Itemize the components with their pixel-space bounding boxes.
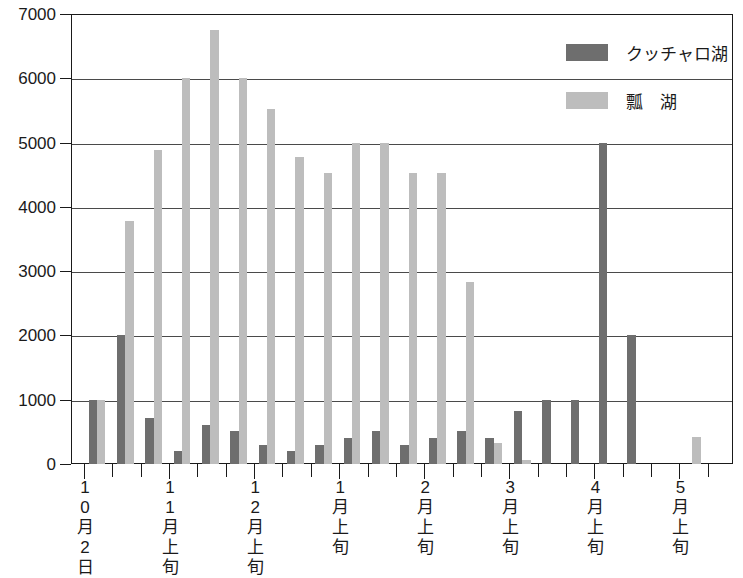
- x-tick-label-char: 0: [72, 498, 98, 518]
- gridline: [72, 144, 732, 145]
- y-tick-label: 7000: [0, 6, 56, 23]
- y-tick-label: 4000: [0, 198, 56, 215]
- x-tick-mark: [311, 464, 312, 477]
- x-tick-label: 4月上旬: [582, 478, 608, 558]
- x-tick-label-char: 日: [72, 558, 98, 578]
- x-tick-label-char: 旬: [327, 538, 353, 558]
- x-tick-mark: [141, 464, 142, 477]
- x-tick-label-char: 3: [497, 478, 523, 498]
- x-tick-mark: [339, 464, 340, 479]
- x-tick-label: 11月上旬: [157, 478, 183, 578]
- gridline: [72, 272, 732, 273]
- x-tick-mark: [112, 464, 113, 477]
- x-tick-label: 3月上旬: [497, 478, 523, 558]
- x-axis-labels: 10月2日11月上旬12月上旬1月上旬2月上旬3月上旬4月上旬5月上旬: [0, 478, 743, 565]
- x-tick-label-char: 月: [242, 518, 268, 538]
- x-tick-mark: [594, 464, 595, 479]
- x-tick-mark: [169, 464, 170, 479]
- y-tick-label: 1000: [0, 391, 56, 408]
- legend-label-hyoko: 瓢 湖: [626, 88, 677, 113]
- x-tick-mark: [197, 464, 198, 477]
- y-tick-mark: [60, 207, 71, 208]
- x-tick-label-char: 1: [157, 478, 183, 498]
- x-tick-mark: [708, 464, 709, 477]
- x-tick-mark: [481, 464, 482, 477]
- y-tick-label: 2000: [0, 327, 56, 344]
- y-tick-label: 3000: [0, 263, 56, 280]
- x-tick-label-char: 上: [412, 518, 438, 538]
- x-tick-mark: [538, 464, 539, 477]
- y-tick-mark: [60, 400, 71, 401]
- legend-swatch-dark-icon: [566, 44, 608, 61]
- x-tick-label-char: 上: [582, 518, 608, 538]
- legend-item-hyoko: 瓢 湖: [566, 76, 736, 124]
- x-tick-label-char: 2: [242, 498, 268, 518]
- x-tick-mark: [254, 464, 255, 479]
- x-tick-label-char: 旬: [157, 558, 183, 578]
- x-tick-label-char: 旬: [242, 558, 268, 578]
- x-axis-ticks: [71, 464, 733, 478]
- x-tick-label: 5月上旬: [667, 478, 693, 558]
- y-tick-mark: [60, 14, 71, 15]
- x-tick-label-char: 上: [497, 518, 523, 538]
- x-tick-label-char: 月: [412, 498, 438, 518]
- y-tick-label: 6000: [0, 70, 56, 87]
- x-tick-mark: [424, 464, 425, 479]
- legend: クッチャロ湖 瓢 湖: [566, 28, 736, 124]
- y-tick-mark: [60, 143, 71, 144]
- x-tick-label-char: 2: [72, 538, 98, 558]
- legend-label-kuccharo: クッチャロ湖: [626, 40, 728, 65]
- x-tick-label-char: 1: [72, 478, 98, 498]
- x-tick-mark: [651, 464, 652, 477]
- x-tick-label-char: 上: [667, 518, 693, 538]
- x-tick-label-char: 2: [412, 478, 438, 498]
- y-tick-label: 0: [0, 456, 56, 473]
- x-tick-label-char: 旬: [497, 538, 523, 558]
- x-tick-mark: [368, 464, 369, 477]
- x-tick-label-char: 旬: [582, 538, 608, 558]
- x-tick-label-char: 1: [327, 478, 353, 498]
- x-tick-label-char: 月: [582, 498, 608, 518]
- x-tick-label-char: 月: [667, 498, 693, 518]
- x-tick-label-char: 月: [497, 498, 523, 518]
- x-tick-mark: [226, 464, 227, 477]
- x-tick-label-char: 旬: [667, 538, 693, 558]
- x-tick-label-char: 月: [72, 518, 98, 538]
- x-tick-label-char: 上: [327, 518, 353, 538]
- x-tick-mark: [679, 464, 680, 479]
- y-tick-mark: [60, 464, 71, 465]
- x-tick-label: 2月上旬: [412, 478, 438, 558]
- x-tick-label-char: 上: [242, 538, 268, 558]
- x-tick-mark: [623, 464, 624, 477]
- x-tick-label-char: 5: [667, 478, 693, 498]
- x-tick-label-char: 旬: [412, 538, 438, 558]
- x-tick-label-char: 1: [157, 498, 183, 518]
- x-tick-label: 10月2日: [72, 478, 98, 578]
- gridline: [72, 336, 732, 337]
- x-tick-mark: [453, 464, 454, 477]
- legend-item-kuccharo: クッチャロ湖: [566, 28, 736, 76]
- x-tick-label-char: 月: [327, 498, 353, 518]
- x-tick-mark: [509, 464, 510, 479]
- x-tick-mark: [84, 464, 85, 479]
- gridline: [72, 208, 732, 209]
- y-tick-label: 5000: [0, 134, 56, 151]
- y-tick-mark: [60, 335, 71, 336]
- y-tick-mark: [60, 78, 71, 79]
- y-tick-mark: [60, 271, 71, 272]
- x-tick-label-char: 1: [242, 478, 268, 498]
- x-tick-label-char: 4: [582, 478, 608, 498]
- x-tick-mark: [282, 464, 283, 477]
- x-tick-label: 12月上旬: [242, 478, 268, 578]
- gridline: [72, 401, 732, 402]
- legend-swatch-light-icon: [566, 92, 608, 109]
- x-tick-mark: [566, 464, 567, 477]
- x-tick-label: 1月上旬: [327, 478, 353, 558]
- x-tick-label-char: 月: [157, 518, 183, 538]
- x-tick-label-char: 上: [157, 538, 183, 558]
- x-tick-mark: [396, 464, 397, 477]
